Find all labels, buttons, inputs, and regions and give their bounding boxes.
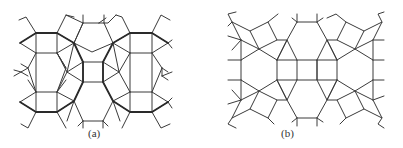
tiling-b-drawing	[200, 0, 403, 148]
tiling-figure-b: (b)	[200, 0, 403, 148]
caption-a: (a)	[88, 127, 100, 139]
caption-b: (b)	[281, 127, 294, 139]
tiling-figure-a: (a)	[0, 0, 200, 148]
tiling-a-drawing	[0, 0, 200, 148]
